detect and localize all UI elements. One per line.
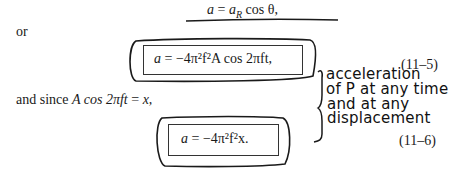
eq-top-rhs-sub: R: [236, 9, 242, 20]
eq-11-6-equals: =: [192, 131, 200, 146]
connector-rhs: x,: [143, 92, 153, 107]
brace-stroke: [314, 71, 322, 142]
eq-11-5-equals: =: [165, 51, 173, 66]
connector-equals: =: [131, 92, 139, 107]
eq-top-rhs-rest: cos θ,: [246, 2, 278, 17]
connector-text: and since A cos 2πft = x,: [16, 92, 152, 108]
eq-top-equals: =: [218, 2, 226, 17]
equation-11-6: a = −4π²f²x.: [181, 131, 248, 147]
eq-11-6-lhs: a: [181, 131, 188, 146]
connector-math: A cos 2πft: [72, 92, 128, 107]
eq-top-rhs-var: a: [229, 2, 236, 17]
connector-prefix: and since: [16, 92, 68, 107]
word-or: or: [16, 24, 28, 40]
eq-11-6-rhs: −4π²f²x.: [203, 131, 249, 146]
equation-top: a = aR cos θ,: [207, 2, 278, 20]
eq-top-lhs: a: [207, 2, 214, 17]
equation-number-11-6: (11–6): [399, 133, 436, 149]
handwritten-note-line-4: displacement: [327, 111, 431, 126]
eq-11-5-rhs: −4π²f²A cos 2πft,: [176, 51, 272, 66]
equation-11-5: a = −4π²f²A cos 2πft,: [154, 51, 272, 67]
eq-11-5-lhs: a: [154, 51, 161, 66]
